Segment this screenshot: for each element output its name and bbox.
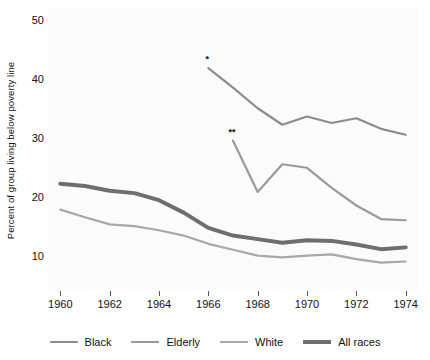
legend-item-label: Black (85, 336, 112, 348)
legend-swatch-icon (303, 340, 331, 344)
legend-item-black[interactable]: Black (50, 336, 112, 348)
series-line-all-races (60, 184, 405, 249)
plot-area: *** (48, 8, 418, 291)
x-tick-label-1962: 1962 (97, 298, 121, 310)
legend-item-all-races[interactable]: All races (303, 336, 380, 348)
x-tick-mark-1966 (208, 291, 209, 296)
y-tick-label-40: 40 (22, 73, 44, 85)
poverty-line-chart: Percent of group living below poverty li… (0, 0, 430, 360)
series-canvas: *** (48, 8, 418, 291)
y-tick-label-20: 20 (22, 191, 44, 203)
y-axis-tick-labels: 1020304050 (16, 0, 44, 300)
x-tick-mark-1960 (60, 291, 61, 296)
x-tick-label-1968: 1968 (245, 298, 269, 310)
y-tick-label-10: 10 (22, 250, 44, 262)
x-tick-label-1972: 1972 (344, 298, 368, 310)
x-tick-label-1974: 1974 (393, 298, 417, 310)
x-tick-mark-1974 (406, 291, 407, 296)
legend-swatch-icon (50, 341, 78, 343)
x-tick-label-1960: 1960 (48, 298, 72, 310)
legend-swatch-icon (131, 341, 159, 343)
series-line-black (208, 68, 405, 135)
y-tick-label-30: 30 (22, 132, 44, 144)
footnote-marker-black: * (206, 54, 210, 64)
x-tick-mark-1968 (258, 291, 259, 296)
y-tick-label-50: 50 (22, 14, 44, 26)
x-tick-mark-1970 (307, 291, 308, 296)
legend-swatch-icon (220, 341, 248, 343)
x-axis: 19601962196419661968197019721974 (48, 291, 418, 321)
chart-legend: BlackElderlyWhiteAll races (0, 330, 430, 354)
legend-item-label: All races (338, 336, 380, 348)
x-tick-label-1970: 1970 (295, 298, 319, 310)
footnote-marker-elderly: ** (228, 127, 236, 137)
y-axis-title-text: Percent of group living below poverty li… (6, 61, 17, 238)
x-tick-mark-1972 (356, 291, 357, 296)
x-tick-mark-1964 (159, 291, 160, 296)
legend-item-white[interactable]: White (220, 336, 283, 348)
x-tick-label-1966: 1966 (196, 298, 220, 310)
series-line-elderly (233, 141, 406, 221)
x-tick-label-1964: 1964 (147, 298, 171, 310)
legend-item-elderly[interactable]: Elderly (131, 336, 200, 348)
x-tick-mark-1962 (110, 291, 111, 296)
legend-item-label: White (255, 336, 283, 348)
legend-item-label: Elderly (166, 336, 200, 348)
